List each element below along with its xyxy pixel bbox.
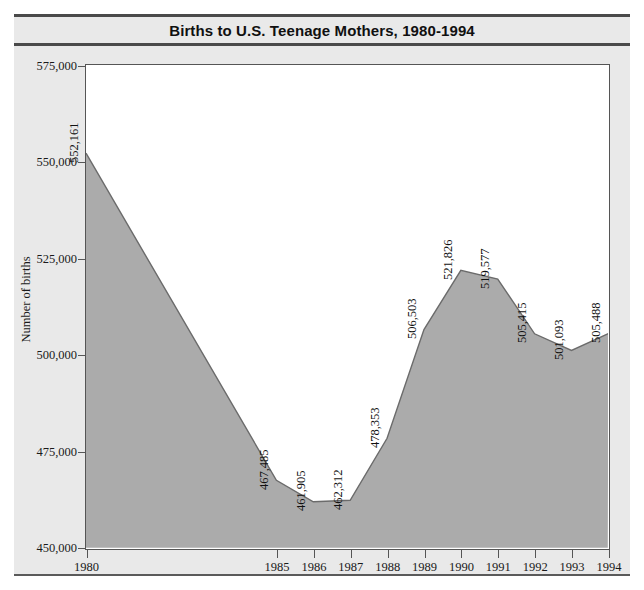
y-axis-tick-mark	[78, 548, 86, 549]
chart-figure: Births to U.S. Teenage Mothers, 1980-199…	[0, 0, 644, 590]
plot-area	[85, 64, 610, 550]
y-axis-tick-mark	[78, 162, 86, 163]
x-axis-tick-label: 1988	[375, 560, 400, 575]
data-point-label: 462,312	[331, 469, 346, 510]
data-point-label: 501,093	[552, 319, 567, 360]
y-axis-tick-label: 525,000	[36, 251, 77, 266]
data-point-label: 461,905	[294, 471, 309, 512]
x-axis-tick-mark	[535, 550, 536, 558]
data-point-label: 478,353	[368, 407, 383, 448]
data-point-label: 505,488	[589, 302, 604, 343]
x-axis-tick-label: 1985	[265, 560, 290, 575]
y-axis-tick-label: 500,000	[36, 348, 77, 363]
x-axis-tick-label: 1989	[412, 560, 437, 575]
bottom-divider	[14, 574, 630, 576]
x-axis-tick-mark	[87, 550, 88, 558]
x-axis-tick-mark	[609, 550, 610, 558]
x-axis-tick-mark	[388, 550, 389, 558]
y-axis-tick-group: 450,000475,000500,000525,000550,000575,0…	[0, 0, 77, 590]
y-axis-tick-mark	[78, 259, 86, 260]
x-axis-tick-mark	[498, 550, 499, 558]
x-axis-tick-mark	[461, 550, 462, 558]
y-axis-tick-mark	[78, 355, 86, 356]
data-point-label: 519,577	[478, 248, 493, 289]
x-axis-tick-label: 1990	[449, 560, 474, 575]
data-point-label: 521,826	[441, 239, 456, 280]
data-point-label: 506,503	[405, 299, 420, 340]
y-axis-tick-mark	[78, 452, 86, 453]
x-axis-tick-label: 1980	[74, 560, 99, 575]
x-axis-tick-label: 1993	[560, 560, 585, 575]
data-point-label: 505,415	[515, 303, 530, 344]
chart-title: Births to U.S. Teenage Mothers, 1980-199…	[169, 22, 475, 39]
x-axis-tick-label: 1992	[523, 560, 548, 575]
y-axis-tick-mark	[78, 66, 86, 67]
x-axis-tick-label: 1987	[338, 560, 363, 575]
y-axis-tick-label: 475,000	[36, 444, 77, 459]
x-axis-tick-label: 1991	[486, 560, 511, 575]
source-note	[14, 579, 630, 590]
x-axis-tick-label: 1994	[597, 560, 622, 575]
data-point-label: 467,485	[257, 449, 272, 490]
x-axis-tick-mark	[351, 550, 352, 558]
x-axis-tick-mark	[425, 550, 426, 558]
chart-title-band: Births to U.S. Teenage Mothers, 1980-199…	[14, 14, 630, 46]
data-point-label: 552,161	[67, 122, 82, 163]
x-axis-tick-mark	[277, 550, 278, 558]
x-axis-tick-mark	[572, 550, 573, 558]
x-axis-tick-mark	[314, 550, 315, 558]
x-axis-tick-label: 1986	[301, 560, 326, 575]
y-axis-tick-label: 450,000	[36, 541, 77, 556]
y-axis-tick-label: 575,000	[36, 58, 77, 73]
area-series-fill	[86, 153, 608, 548]
